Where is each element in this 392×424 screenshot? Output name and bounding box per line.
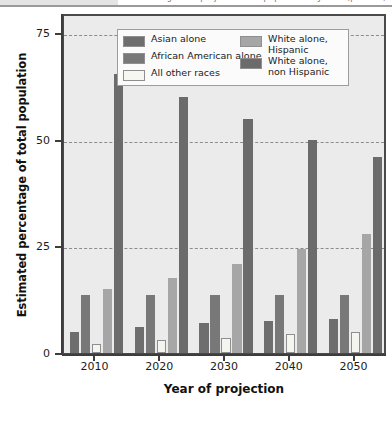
legend-swatch-icon bbox=[240, 36, 262, 47]
bar-2010-white-alone-non-hispanic bbox=[114, 74, 123, 353]
legend-item-label: White alone, non Hispanic bbox=[268, 56, 329, 77]
bar-2030-african-american-alone bbox=[210, 295, 219, 353]
legend-item-label: White alone, Hispanic bbox=[268, 34, 328, 55]
legend-swatch-icon bbox=[123, 70, 145, 81]
clipped-caption: Figure — projected U.S. population by ra… bbox=[160, 0, 392, 3]
bar-2040-asian-alone bbox=[264, 321, 273, 353]
bar-2010-all-other-races bbox=[92, 344, 101, 353]
gridline-50 bbox=[64, 142, 384, 143]
bar-2040-white-alone-non-hispanic bbox=[308, 140, 317, 353]
bar-2050-white-alone-hispanic bbox=[362, 234, 371, 353]
x-tick-label-2040: 2040 bbox=[259, 360, 319, 373]
bar-2010-white-alone-hispanic bbox=[103, 289, 112, 353]
bar-2020-white-alone-non-hispanic bbox=[179, 97, 188, 353]
legend-item-label: All other races bbox=[151, 68, 220, 79]
bar-2050-asian-alone bbox=[329, 319, 338, 353]
x-tick-label-2050: 2050 bbox=[324, 360, 384, 373]
y-tick-label-75: 75 bbox=[20, 27, 50, 40]
bar-2030-white-alone-hispanic bbox=[232, 264, 241, 354]
legend-item: White alone, non Hispanic bbox=[240, 56, 329, 77]
bar-2020-all-other-races bbox=[157, 340, 166, 353]
bar-2010-asian-alone bbox=[70, 332, 79, 353]
bar-2010-african-american-alone bbox=[81, 295, 90, 353]
bar-2050-white-alone-non-hispanic bbox=[373, 157, 382, 353]
legend-item: White alone, Hispanic bbox=[240, 34, 329, 55]
x-tick-label-2030: 2030 bbox=[194, 360, 254, 373]
legend-swatch-icon bbox=[240, 58, 262, 69]
horizontal-rule bbox=[0, 5, 392, 7]
bar-2040-all-other-races bbox=[286, 334, 295, 353]
legend-swatch-icon bbox=[123, 36, 145, 47]
page-top-strip: Figure — projected U.S. population by ra… bbox=[0, 0, 392, 9]
y-tick-label-0: 0 bbox=[20, 347, 50, 360]
legend-item-label: Asian alone bbox=[151, 34, 206, 45]
x-axis-title: Year of projection bbox=[62, 382, 386, 396]
bar-2020-african-american-alone bbox=[146, 295, 155, 353]
legend-column-right: White alone, HispanicWhite alone, non Hi… bbox=[240, 34, 329, 78]
y-axis-title: Estimated percentage of total population bbox=[15, 50, 29, 320]
bar-2050-all-other-races bbox=[351, 332, 360, 353]
bar-2040-white-alone-hispanic bbox=[297, 249, 306, 353]
y-axis-line bbox=[61, 14, 63, 355]
legend-swatch-icon bbox=[123, 53, 145, 64]
bar-2020-white-alone-hispanic bbox=[168, 278, 177, 353]
bar-2050-african-american-alone bbox=[340, 295, 349, 353]
bar-2030-asian-alone bbox=[199, 323, 208, 353]
bar-2030-white-alone-non-hispanic bbox=[243, 119, 252, 353]
gridline-25 bbox=[64, 248, 384, 249]
x-tick-label-2020: 2020 bbox=[129, 360, 189, 373]
bar-2020-asian-alone bbox=[135, 327, 144, 353]
bar-2030-all-other-races bbox=[221, 338, 230, 353]
bar-2040-african-american-alone bbox=[275, 295, 284, 353]
bottom-padding bbox=[0, 400, 392, 424]
chart-legend: Asian aloneAfrican American aloneAll oth… bbox=[117, 29, 349, 86]
x-tick-label-2010: 2010 bbox=[64, 360, 124, 373]
